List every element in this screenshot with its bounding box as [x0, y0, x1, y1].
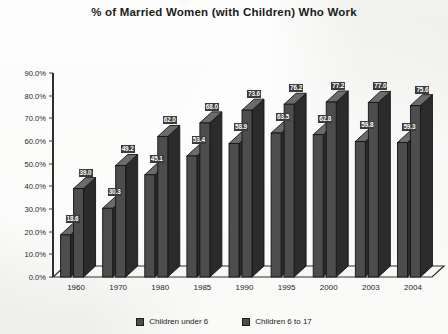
plot-area: 0.0%10.0%20.0%30.0%40.0%50.0%60.0%70.0%8…: [0, 0, 448, 334]
y-axis-tick: [49, 118, 53, 119]
bar-side-face: [126, 154, 138, 277]
bar-side-face: [378, 91, 390, 277]
chart-3d-column: % of Married Women (with Children) Who W…: [0, 0, 448, 334]
bar-data-label: 73.6: [247, 90, 261, 98]
y-axis-tick: [49, 231, 53, 232]
bar-2004-series-1[interactable]: [397, 143, 407, 277]
bar-data-label: 75.6: [415, 86, 429, 94]
bar-side-face: [168, 125, 180, 277]
bar-2004-series-2[interactable]: [410, 106, 420, 277]
bar-data-label: 77.2: [331, 82, 345, 90]
bar-data-label: 62.0: [163, 116, 177, 124]
bar-data-label: 62.8: [318, 115, 332, 123]
x-axis-tick-label-1985: 1985: [193, 283, 211, 292]
x-axis-tick-label-2000: 2000: [320, 283, 338, 292]
y-axis-tick-label: 90.0%: [0, 69, 46, 78]
bar-data-label: 18.6: [66, 215, 80, 223]
x-axis-tick-label-1960: 1960: [67, 283, 85, 292]
chart-legend: Children under 6 Children 6 to 17: [0, 317, 448, 326]
legend-swatch-icon: [136, 318, 144, 326]
bar-side-face: [336, 91, 348, 277]
bar-side-face: [420, 95, 432, 277]
bar-data-label: 45.1: [150, 155, 164, 163]
x-axis-tick-label-2004: 2004: [404, 283, 422, 292]
bar-2000-series-2[interactable]: [326, 102, 336, 277]
bar-1990-series-1[interactable]: [229, 143, 239, 277]
bar-data-label: 58.9: [234, 123, 248, 131]
y-axis-tick: [49, 95, 53, 96]
bar-1995-series-1[interactable]: [271, 133, 281, 277]
bar-1985-series-1[interactable]: [187, 156, 197, 277]
legend-label: Children 6 to 17: [255, 317, 311, 326]
y-axis-tick: [49, 209, 53, 210]
y-axis-tick: [49, 277, 53, 278]
bar-1970-series-2[interactable]: [116, 165, 126, 277]
x-axis-tick-label-1980: 1980: [151, 283, 169, 292]
y-axis-tick-label: 40.0%: [0, 182, 46, 191]
bar-1985-series-2[interactable]: [200, 123, 210, 277]
legend-swatch-icon: [242, 318, 250, 326]
bar-1970-series-1[interactable]: [103, 208, 113, 277]
bar-data-label: 76.2: [289, 84, 303, 92]
bar-data-label: 59.3: [402, 123, 416, 131]
y-axis-tick-label: 10.0%: [0, 250, 46, 259]
y-axis-tick: [49, 163, 53, 164]
bar-data-label: 53.4: [192, 136, 206, 144]
bar-data-label: 39.0: [79, 169, 93, 177]
bar-side-face: [252, 99, 264, 277]
bar-data-label: 68.0: [205, 103, 219, 111]
bar-side-face: [84, 178, 96, 277]
bar-1960-series-1[interactable]: [61, 235, 71, 277]
y-axis-tick-label: 20.0%: [0, 227, 46, 236]
y-axis-tick-label: 70.0%: [0, 114, 46, 123]
bar-side-face: [294, 93, 306, 277]
y-axis-tick-label: 60.0%: [0, 137, 46, 146]
bar-2000-series-1[interactable]: [313, 135, 323, 277]
bar-1980-series-1[interactable]: [145, 175, 155, 277]
legend-item-children-6-to-17: Children 6 to 17: [242, 317, 311, 326]
x-axis-tick-label-2003: 2003: [362, 283, 380, 292]
y-axis-tick-label: 50.0%: [0, 159, 46, 168]
y-axis-tick: [49, 186, 53, 187]
bar-data-label: 49.2: [121, 145, 135, 153]
y-axis-line: [52, 73, 53, 277]
bar-data-label: 59.8: [360, 121, 374, 129]
bar-data-label: 30.3: [108, 188, 122, 196]
y-axis-tick: [49, 254, 53, 255]
x-axis-tick-label-1990: 1990: [236, 283, 254, 292]
y-axis-tick-label: 30.0%: [0, 205, 46, 214]
x-axis-tick-label-1970: 1970: [109, 283, 127, 292]
bar-data-label: 77.0: [373, 82, 387, 90]
bar-data-label: 63.5: [276, 113, 290, 121]
y-axis-tick-label: 0.0%: [0, 273, 46, 282]
bar-1995-series-2[interactable]: [284, 104, 294, 277]
legend-label: Children under 6: [149, 317, 208, 326]
bar-1960-series-2[interactable]: [74, 189, 84, 277]
x-axis-tick-label-1995: 1995: [278, 283, 296, 292]
bar-1990-series-2[interactable]: [242, 110, 252, 277]
y-axis-tick-label: 80.0%: [0, 91, 46, 100]
y-axis-tick: [49, 73, 53, 74]
legend-item-children-under-6: Children under 6: [136, 317, 208, 326]
bar-side-face: [210, 112, 222, 277]
y-axis-tick: [49, 141, 53, 142]
bar-2003-series-1[interactable]: [355, 141, 365, 277]
